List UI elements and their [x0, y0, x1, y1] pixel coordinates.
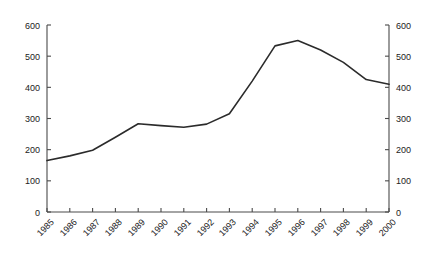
- left-y-tick-marks: [47, 25, 51, 212]
- left-y-tick-label: 600: [25, 21, 40, 31]
- line-chart: 0100200300400500600 0100200300400500600 …: [0, 0, 436, 256]
- right-y-tick-labels: 0100200300400500600: [396, 21, 411, 218]
- data-series-line: [47, 41, 389, 161]
- right-y-tick-marks: [385, 25, 389, 212]
- left-y-tick-label: 100: [25, 176, 40, 186]
- right-y-tick-label: 500: [396, 52, 411, 62]
- left-y-tick-label: 0: [35, 208, 40, 218]
- right-y-tick-label: 400: [396, 83, 411, 93]
- right-y-tick-label: 0: [396, 208, 401, 218]
- chart-canvas: 0100200300400500600 0100200300400500600: [0, 0, 436, 256]
- left-y-tick-label: 300: [25, 114, 40, 124]
- right-y-tick-label: 100: [396, 176, 411, 186]
- right-y-tick-label: 200: [396, 145, 411, 155]
- left-y-tick-label: 400: [25, 83, 40, 93]
- left-y-tick-labels: 0100200300400500600: [25, 21, 40, 218]
- x-tick-marks: [47, 208, 389, 212]
- left-y-tick-label: 200: [25, 145, 40, 155]
- right-y-tick-label: 300: [396, 114, 411, 124]
- left-y-tick-label: 500: [25, 52, 40, 62]
- right-y-tick-label: 600: [396, 21, 411, 31]
